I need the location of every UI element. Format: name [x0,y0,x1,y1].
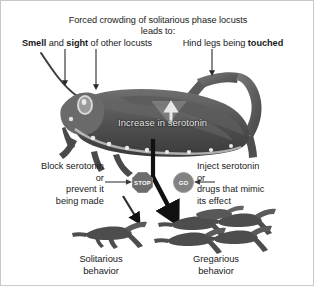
block-line-3: prevent it [41,184,104,196]
gregarious-locust-1 [158,212,230,238]
diagram-title-line-1: Forced crowding of solitarious phase loc… [69,15,248,26]
locust-serotonin-diagram: Forced crowding of solitarious phase loc… [0,0,314,286]
cue-touch-bold: touched [248,38,283,48]
cue-smell-tail: of other locusts [88,38,152,48]
cue-smell-mid: and [46,38,66,48]
gregarious-locust-4 [200,226,272,252]
gregarious-line-2: behavior [193,265,239,277]
solitarious-locust-icon [72,222,147,249]
intervention-inject-serotonin-text: Inject serotonin or drugs that mimic its… [197,161,264,207]
locust-photo-illustration [41,53,262,177]
gregarious-locust-3 [154,228,226,254]
cue-sight-bold: sight [66,38,88,48]
stop-sign-icon: STOP [132,172,153,193]
intervention-block-serotonin-text: Block serotonin or prevent it being made [41,161,104,207]
block-line-1: Block serotonin [41,161,104,173]
outcome-caption-solitarious: Solitarious behavior [79,253,122,276]
serotonin-increase-label: Increase in serotonin [118,117,207,128]
block-line-2: or [41,173,104,185]
inject-line-2: or [197,173,264,185]
gregarious-locust-5 [196,206,244,219]
diagram-title-line-2: leads to: [141,26,175,37]
gregarious-locust-cluster [154,206,276,254]
inject-line-3: drugs that mimic [197,184,264,196]
arrow-stop-to-solitarious [123,196,137,219]
cue-touch-lead: Hind legs being [183,38,248,48]
go-sign-icon: GO [173,172,194,193]
gregarious-line-1: Gregarious [193,253,239,265]
cue-label-hind-leg-touch: Hind legs being touched [183,38,283,49]
cue-smell-bold: Smell [22,38,46,48]
cue-label-smell-sight: Smell and sight of other locusts [22,38,152,49]
solitarious-line-1: Solitarious [79,253,122,265]
gregarious-locust-2 [204,209,276,235]
solitarious-line-2: behavior [79,265,122,277]
inject-line-1: Inject serotonin [197,161,264,173]
inject-line-4: its effect [197,196,264,208]
block-line-4: being made [41,196,104,208]
outcome-caption-gregarious: Gregarious behavior [193,253,239,276]
serotonin-outcome-arrow [153,141,173,215]
